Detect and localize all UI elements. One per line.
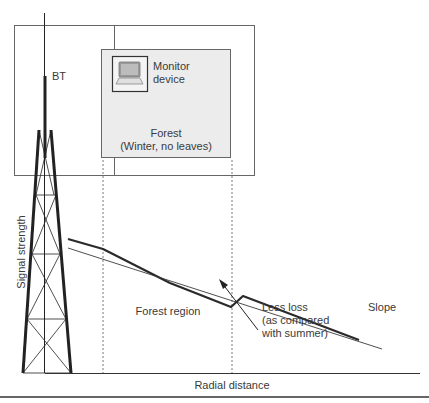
slope-label: Slope [368,301,396,313]
forest-label-line1: Forest [150,127,181,139]
monitor-device-label-line2: device [153,73,185,85]
tower-label: BT [52,70,66,82]
signal-propagation-diagram: Monitor device Forest (Winter, no leaves… [0,0,429,403]
y-axis-label: Signal strength [15,215,27,288]
x-axis-label: Radial distance [194,379,269,391]
reference-slope-line [68,248,382,349]
forest-region-label: Forest region [136,305,201,317]
monitor-device-label-line1: Monitor [153,60,190,72]
tower-icon [23,13,71,373]
scene-outer-box [15,26,115,176]
laptop-icon [113,57,148,92]
annotation-line2: (as compared [262,314,329,326]
annotation-line1: Less loss [262,301,308,313]
annotation-line3: with summer) [261,327,328,339]
forest-label-line2: (Winter, no leaves) [120,140,212,152]
